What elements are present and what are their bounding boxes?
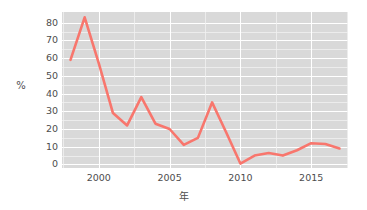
line-chart: % 01020304050607080 2000200520102015 年 xyxy=(0,0,367,210)
x-axis-tick-label: 2005 xyxy=(150,172,190,183)
x-axis-tick-label: 2010 xyxy=(220,172,260,183)
x-axis-tick-labels: 2000200520102015 xyxy=(0,0,367,210)
x-axis-tick-label: 2015 xyxy=(291,172,331,183)
x-axis-title: 年 xyxy=(0,188,367,203)
x-axis-tick-label: 2000 xyxy=(79,172,119,183)
